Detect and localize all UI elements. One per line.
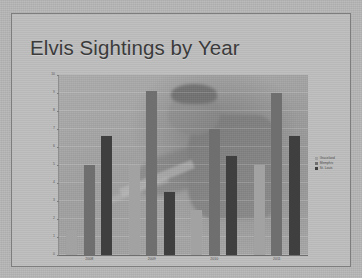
bar-group xyxy=(246,75,309,255)
legend-label: St. Louis xyxy=(320,167,333,170)
x-axis-labels: 2008200920102011 xyxy=(58,258,308,267)
legend-swatch-icon xyxy=(315,167,318,170)
legend-swatch-icon xyxy=(315,162,318,165)
y-tick-mark xyxy=(57,183,59,184)
slide-canvas: Elvis Sightings by Year 0123456789 xyxy=(12,14,350,266)
y-axis-ticks: 012345678910 xyxy=(58,75,59,255)
y-tick-mark xyxy=(57,147,59,148)
y-tick-label: 3 xyxy=(53,199,55,202)
y-tick-label: 7 xyxy=(53,127,55,130)
y-tick-label: 0 xyxy=(53,253,55,256)
x-tick-label: 2008 xyxy=(85,258,93,262)
bar[interactable] xyxy=(101,136,112,255)
slide-title: Elvis Sightings by Year xyxy=(30,36,240,60)
y-tick-label: 4 xyxy=(53,181,55,184)
bar-group xyxy=(58,75,121,255)
y-tick-label: 8 xyxy=(53,109,55,112)
y-tick-label: 1 xyxy=(53,235,55,238)
y-tick-mark xyxy=(57,75,59,76)
presentation-slide: Elvis Sightings by Year 0123456789 xyxy=(11,13,351,267)
y-tick-label: 9 xyxy=(53,91,55,94)
legend-label: Memphis xyxy=(320,162,333,165)
bar[interactable] xyxy=(66,230,77,255)
bar[interactable] xyxy=(289,136,300,255)
y-tick-mark xyxy=(57,93,59,94)
chart-legend: GracelandMemphisSt. Louis xyxy=(315,156,349,171)
legend-label: Graceland xyxy=(320,157,335,160)
bar[interactable] xyxy=(84,165,95,255)
chart-bars xyxy=(58,75,308,255)
bar[interactable] xyxy=(254,165,265,255)
legend-swatch-icon xyxy=(315,157,318,160)
bar[interactable] xyxy=(209,129,220,255)
bar[interactable] xyxy=(146,91,157,255)
y-tick-mark xyxy=(57,219,59,220)
y-tick-mark xyxy=(57,237,59,238)
chart-plot-area xyxy=(58,75,308,255)
bar[interactable] xyxy=(191,210,202,255)
legend-item[interactable]: St. Louis xyxy=(315,166,349,171)
y-tick-mark xyxy=(57,129,59,130)
x-tick-label: 2011 xyxy=(273,258,281,262)
y-tick-mark xyxy=(57,111,59,112)
bar-group xyxy=(183,75,246,255)
y-tick-mark xyxy=(57,165,59,166)
y-tick-mark xyxy=(57,255,59,256)
bar[interactable] xyxy=(164,192,175,255)
x-tick-label: 2009 xyxy=(148,258,156,262)
y-tick-label: 2 xyxy=(53,217,55,220)
bar-group xyxy=(121,75,184,255)
bar[interactable] xyxy=(226,156,237,255)
y-tick-label: 10 xyxy=(51,73,55,76)
y-tick-label: 6 xyxy=(53,145,55,148)
x-axis-line xyxy=(58,255,308,256)
bar-chart: 012345678910 2008200920102011 GracelandM… xyxy=(45,72,321,262)
y-tick-mark xyxy=(57,201,59,202)
bar[interactable] xyxy=(271,93,282,255)
x-tick-label: 2010 xyxy=(210,258,218,262)
bar[interactable] xyxy=(129,165,140,255)
y-tick-label: 5 xyxy=(53,163,55,166)
